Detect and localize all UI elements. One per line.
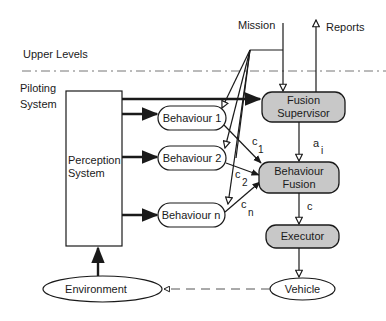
svg-text:Executor: Executor <box>281 230 325 242</box>
svg-text:2: 2 <box>242 177 248 188</box>
svg-text:i: i <box>321 145 323 156</box>
svg-text:Environment: Environment <box>65 283 127 295</box>
edge-label-c: c <box>307 200 313 212</box>
svg-text:Behaviour n: Behaviour n <box>162 209 221 221</box>
svg-text:a: a <box>313 137 320 149</box>
svg-text:Behaviour 2: Behaviour 2 <box>163 152 222 164</box>
behaviour-1-node: Behaviour 1 <box>158 106 226 130</box>
piloting-system-label-2: System <box>20 98 57 110</box>
svg-text:System: System <box>68 167 105 179</box>
behaviour-fusion-node: Behaviour Fusion <box>259 162 339 193</box>
vehicle-node: Vehicle <box>270 278 335 300</box>
edge-label-c2: c 2 <box>235 168 248 188</box>
executor-node: Executor <box>266 225 339 248</box>
upper-levels-label: Upper Levels <box>23 48 88 60</box>
edge-label-c1: c 1 <box>252 135 264 155</box>
svg-text:c: c <box>235 168 241 180</box>
svg-text:n: n <box>248 207 254 218</box>
svg-text:Vehicle: Vehicle <box>285 283 320 295</box>
reports-label: Reports <box>326 21 365 33</box>
svg-text:1: 1 <box>258 144 264 155</box>
svg-text:Supervisor: Supervisor <box>277 107 330 119</box>
edge-label-cn: c n <box>241 198 254 218</box>
behaviour-2-node: Behaviour 2 <box>158 146 226 170</box>
environment-node: Environment <box>43 276 162 302</box>
svg-text:Behaviour: Behaviour <box>274 165 324 177</box>
svg-text:c: c <box>241 198 247 210</box>
edge-label-ai: a i <box>313 137 323 156</box>
mission-label: Mission <box>238 19 275 31</box>
svg-text:Fusion: Fusion <box>287 94 320 106</box>
svg-text:Perception: Perception <box>68 154 121 166</box>
piloting-system-label: Piloting <box>20 82 56 94</box>
perception-system-node: Perception System <box>66 91 122 246</box>
fusion-supervisor-node: Fusion Supervisor <box>262 92 345 122</box>
svg-text:Fusion: Fusion <box>282 178 315 190</box>
behaviour-n-node: Behaviour n <box>158 203 225 227</box>
behaviour-fusion-architecture-diagram: Upper Levels Piloting System Mission Rep… <box>0 0 386 321</box>
svg-text:Behaviour 1: Behaviour 1 <box>163 112 222 124</box>
